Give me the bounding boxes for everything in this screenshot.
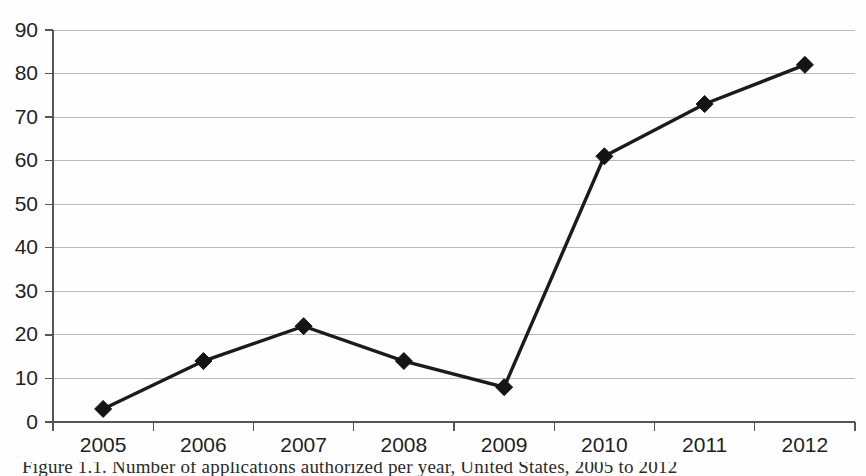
data-point-marker <box>496 379 513 396</box>
data-point-markers <box>95 56 814 417</box>
y-axis-tick-label: 60 <box>15 148 38 171</box>
x-axis-tick-label: 2011 <box>682 433 727 456</box>
y-axis-tick-label: 50 <box>15 192 38 215</box>
y-axis-tick-label: 30 <box>15 279 38 302</box>
x-axis-tick-label: 2009 <box>481 433 528 456</box>
x-axis-tick-label: 2010 <box>581 433 628 456</box>
y-axis-tick-label: 10 <box>15 366 38 389</box>
data-point-marker <box>195 353 212 370</box>
y-axis-tick-label: 20 <box>15 322 38 345</box>
data-point-marker <box>596 148 613 165</box>
x-axis-tick-label: 2005 <box>80 433 127 456</box>
x-axis-tick-labels: 20052006200720082009201020112012 <box>80 433 828 456</box>
x-axis-tick-label: 2007 <box>280 433 327 456</box>
line-chart: 0102030405060708090 20052006200720082009… <box>0 0 866 462</box>
y-axis-tick-label: 0 <box>26 410 38 433</box>
data-point-marker <box>95 400 112 417</box>
data-point-marker <box>295 318 312 335</box>
y-axis-tick-label: 90 <box>15 18 38 41</box>
data-point-marker <box>796 56 813 73</box>
y-axis-tick-label: 40 <box>15 235 38 258</box>
figure-caption: Figure 1.1. Number of applications autho… <box>22 462 866 476</box>
data-point-marker <box>696 96 713 113</box>
y-axis-tick-labels: 0102030405060708090 <box>15 18 38 433</box>
gridlines <box>53 30 855 378</box>
figure-caption-strip: Figure 1.1. Number of applications autho… <box>0 462 866 476</box>
figure-container: 0102030405060708090 20052006200720082009… <box>0 0 866 476</box>
x-axis-tick-marks <box>53 422 855 431</box>
y-axis-tick-marks <box>45 30 53 422</box>
x-axis-tick-label: 2008 <box>381 433 428 456</box>
data-point-marker <box>395 353 412 370</box>
y-axis-tick-label: 80 <box>15 61 38 84</box>
x-axis-tick-label: 2012 <box>782 433 829 456</box>
y-axis-tick-label: 70 <box>15 105 38 128</box>
x-axis-tick-label: 2006 <box>180 433 227 456</box>
